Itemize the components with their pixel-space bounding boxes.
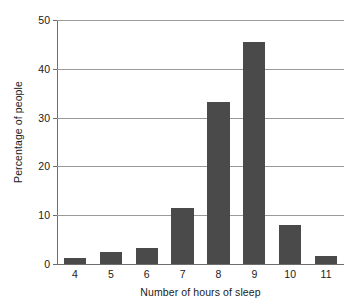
x-tick-label: 5 [108,268,114,280]
y-tick-mark-10 [53,215,57,216]
bar-6[interactable] [136,248,158,264]
plot-area: 01020304050 [57,20,344,264]
y-tick-label: 0 [44,258,50,270]
x-tick-label: 9 [251,268,257,280]
x-tick-label: 4 [72,268,78,280]
x-tick-label: 10 [284,268,296,280]
y-tick-mark-40 [53,69,57,70]
y-tick-mark-50 [53,20,57,21]
x-tick-label: 6 [144,268,150,280]
y-tick-mark-20 [53,166,57,167]
y-tick-mark-0 [53,264,57,265]
y-tick-label: 40 [38,63,50,75]
gridline-y-20 [57,166,344,167]
bar-8[interactable] [207,102,229,265]
y-tick-label: 20 [38,160,50,172]
bar-10[interactable] [279,225,301,264]
bar-4[interactable] [64,258,86,264]
y-axis-label: Percentage of people [10,0,26,264]
x-tick-label: 11 [321,268,332,280]
gridline-y-0 [57,264,344,265]
y-tick-mark-30 [53,118,57,119]
gridline-y-40 [57,69,344,70]
y-tick-label: 50 [38,14,50,26]
bar-9[interactable] [243,42,265,264]
bar-11[interactable] [315,256,337,264]
bar-chart-figure: Percentage of people 01020304050 Number … [0,0,354,305]
y-tick-label: 30 [38,112,50,124]
x-tick-label: 7 [180,268,186,280]
bar-5[interactable] [100,252,122,264]
gridline-y-30 [57,118,344,119]
gridline-y-10 [57,215,344,216]
x-tick-label: 8 [216,268,222,280]
gridline-y-50 [57,20,344,21]
bar-7[interactable] [171,208,193,264]
y-tick-label: 10 [38,209,50,221]
x-axis-label: Number of hours of sleep [57,286,344,298]
